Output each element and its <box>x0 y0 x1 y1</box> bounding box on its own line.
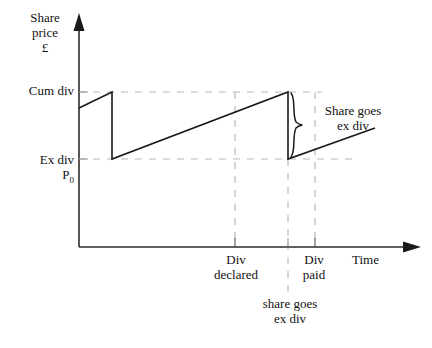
div-declared-line-1: Div <box>200 252 272 267</box>
annotation-share-goes-ex-div-brace: Share goes ex div <box>305 103 401 133</box>
ex-div-drop-brace <box>291 93 302 157</box>
y-tick-label-p0: P0 <box>2 167 74 188</box>
share-price-ex-div-chart: Share price £ Cum div Ex div P0 Div decl… <box>0 0 432 348</box>
x-tick-label-div-paid: Div paid <box>281 252 347 282</box>
brace-label-line-2: ex div <box>305 118 401 133</box>
div-declared-line-2: declared <box>200 267 272 282</box>
p0-base: P <box>62 167 69 182</box>
y-axis-title: Share price £ <box>14 10 76 55</box>
share-goes-ex-div-bottom-line-1: share goes <box>240 296 340 311</box>
x-axis-arrowhead <box>403 242 421 253</box>
y-tick-label-cum-div: Cum div <box>2 83 74 98</box>
y-axis-title-line-3: £ <box>14 40 76 55</box>
y-axis-title-line-2: price <box>14 25 76 40</box>
x-tick-label-div-declared: Div declared <box>200 252 272 282</box>
div-paid-line-1: Div <box>281 252 347 267</box>
share-goes-ex-div-bottom-line-2: ex div <box>240 311 340 326</box>
p0-subscript: 0 <box>70 175 75 185</box>
annotation-share-goes-ex-div-bottom: share goes ex div <box>240 296 340 326</box>
y-tick-label-ex-div: Ex div <box>2 152 74 167</box>
y-axis-title-line-1: Share <box>14 10 76 25</box>
brace-label-line-1: Share goes <box>305 103 401 118</box>
div-paid-line-2: paid <box>281 267 347 282</box>
x-axis-title: Time <box>352 252 402 267</box>
